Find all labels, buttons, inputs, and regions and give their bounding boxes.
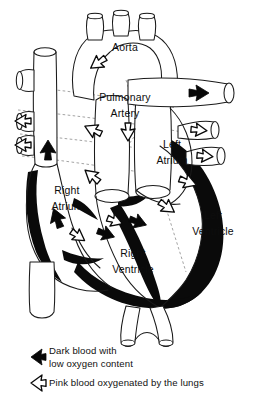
label-right-atrium-line2: Atrium <box>51 200 82 212</box>
left-ventricle-inflow-arrow <box>156 196 179 218</box>
heart-diagram-figure: Aorta Pulmonary Artery Left Atrium Right… <box>0 0 254 404</box>
legend-light-line1: Pink blood oxygenated by the lungs <box>49 377 204 388</box>
pulmonary-valve-ostium <box>95 190 129 203</box>
label-left-ventricle-line1: Left <box>204 209 222 221</box>
left-subclavian-ostium <box>140 13 155 19</box>
descending-vessel-left-ostium <box>121 340 135 346</box>
legend-dark-arrow-icon <box>31 349 46 365</box>
right-ventricle-apex-arrow <box>68 226 89 246</box>
apex-connector <box>135 333 159 341</box>
label-aorta: Aorta <box>112 41 138 53</box>
pulmonary-vein-right-upper-ostium <box>211 122 219 139</box>
right-ventricle-outflow-arrow <box>95 224 117 244</box>
label-left-atrium-line1: Left <box>163 138 181 150</box>
label-right-atrium-line1: Right <box>54 184 79 196</box>
descending-vessel-right-ostium <box>159 340 173 346</box>
legend-dark-line1: Dark blood with <box>49 345 117 356</box>
right-pulmonary-artery-ostium <box>224 83 234 103</box>
label-left-ventricle-line2: Ventricle <box>192 225 234 237</box>
superior-vena-cava-ostium <box>34 48 56 56</box>
vena-cava-branch-ostium <box>16 72 22 90</box>
legend-group: Dark blood with low oxygen content Pink … <box>31 345 204 391</box>
legend-light-arrow-icon <box>31 375 46 391</box>
legend-dark-line2: low oxygen content <box>49 358 133 369</box>
inferior-vena-cava <box>29 262 55 318</box>
left-carotid-ostium <box>114 10 129 16</box>
pulmonary-vein-right-lower-ostium <box>217 148 225 165</box>
label-right-ventricle-line2: Ventricle <box>112 263 154 275</box>
heart-diagram-svg: Aorta Pulmonary Artery Left Atrium Right… <box>0 0 254 404</box>
right-atrium-floor-shadow <box>62 250 104 264</box>
label-left-atrium-line2: Atrium <box>156 154 187 166</box>
label-pulmonary-artery-line1: Pulmonary <box>99 91 151 103</box>
brachiocephalic-ostium <box>88 13 103 19</box>
aortic-valve-ostium <box>136 186 170 199</box>
label-right-ventricle-line1: Right <box>120 247 145 259</box>
label-pulmonary-artery-line2: Artery <box>111 107 141 119</box>
